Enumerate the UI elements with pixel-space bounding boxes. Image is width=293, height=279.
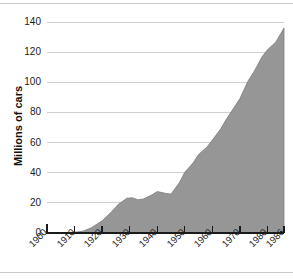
chart-figure: 020406080100120140 190019101920193019401… xyxy=(0,0,293,279)
y-tick-label: 120 xyxy=(15,47,41,57)
area-series-group xyxy=(47,28,284,233)
y-tick-label: 140 xyxy=(15,17,41,27)
y-tick-label: 20 xyxy=(15,198,41,208)
y-axis-title: Millions of cars xyxy=(12,66,24,186)
area-series-path xyxy=(47,28,284,233)
